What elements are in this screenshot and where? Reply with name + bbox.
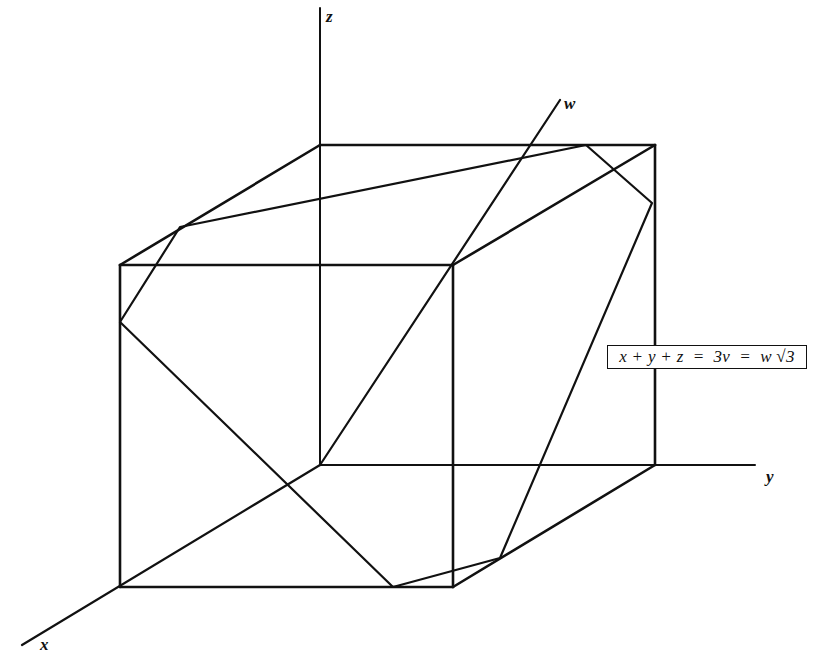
cube-diagram <box>0 0 820 669</box>
cube-edge-bottom-right-depth <box>453 465 655 587</box>
w-axis-label: w <box>564 95 575 112</box>
cube-edge-top-right-depth <box>453 145 655 265</box>
equation-label: x + y + z = 3v = w √3 <box>607 345 807 369</box>
w-axis <box>320 100 560 465</box>
y-axis-label: y <box>766 468 774 485</box>
x-axis <box>22 465 320 645</box>
x-axis-label: x <box>40 636 49 653</box>
z-axis-label: z <box>326 8 333 25</box>
